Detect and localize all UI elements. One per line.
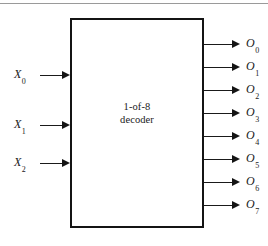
output-arrowhead-icon: [232, 109, 240, 117]
output-label-o1: O1: [246, 60, 259, 72]
output-wire: [204, 90, 234, 91]
output-label-subscript: 0: [255, 46, 260, 55]
decoder-block-label-line1: 1-of-8: [70, 100, 204, 113]
output-label-subscript: 2: [255, 92, 260, 101]
output-arrowhead-icon: [232, 178, 240, 186]
input-label-subscript: 2: [21, 165, 26, 174]
input-arrowhead-icon: [62, 71, 70, 79]
output-label-subscript: 4: [255, 138, 260, 147]
output-arrowhead-icon: [232, 63, 240, 71]
decoder-diagram-canvas: 1-of-8 decoder X0X1X2 O0O1O2O3O4O5O6O7: [0, 0, 268, 246]
decoder-block-label-line2: decoder: [70, 113, 204, 126]
input-wire: [40, 125, 64, 126]
output-wire: [204, 67, 234, 68]
output-wire: [204, 182, 234, 183]
output-wire: [204, 44, 234, 45]
output-label-o2: O2: [246, 83, 259, 95]
output-wire: [204, 159, 234, 160]
output-label-subscript: 3: [255, 115, 260, 124]
input-arrowhead-icon: [62, 159, 70, 167]
input-wire: [40, 163, 64, 164]
output-wire: [204, 113, 234, 114]
output-arrowhead-icon: [232, 201, 240, 209]
output-arrowhead-icon: [232, 155, 240, 163]
output-arrowhead-icon: [232, 132, 240, 140]
input-label-subscript: 1: [21, 127, 26, 136]
output-label-subscript: 7: [255, 207, 260, 216]
input-arrowhead-icon: [62, 121, 70, 129]
input-label-subscript: 0: [21, 77, 26, 86]
output-label-subscript: 5: [255, 161, 260, 170]
output-label-o6: O6: [246, 175, 259, 187]
output-arrowhead-icon: [232, 40, 240, 48]
output-label-o7: O7: [246, 198, 259, 210]
output-label-subscript: 6: [255, 184, 260, 193]
input-label-x2: X2: [14, 156, 26, 168]
output-label-o4: O4: [246, 129, 259, 141]
output-label-o0: O0: [246, 37, 259, 49]
output-label-o3: O3: [246, 106, 259, 118]
top-divider-rule: [0, 3, 268, 4]
decoder-block-label: 1-of-8 decoder: [70, 100, 204, 126]
input-wire: [40, 75, 64, 76]
input-label-x1: X1: [14, 118, 26, 130]
output-label-subscript: 1: [255, 69, 260, 78]
output-wire: [204, 205, 234, 206]
output-wire: [204, 136, 234, 137]
output-label-o5: O5: [246, 152, 259, 164]
input-label-x0: X0: [14, 68, 26, 80]
output-arrowhead-icon: [232, 86, 240, 94]
